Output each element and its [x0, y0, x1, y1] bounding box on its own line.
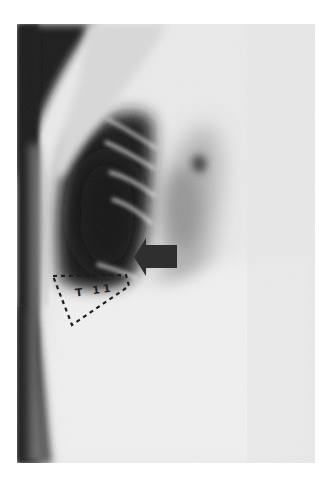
- radiograph-image: T 11: [17, 24, 315, 463]
- xray-scene: [17, 24, 315, 463]
